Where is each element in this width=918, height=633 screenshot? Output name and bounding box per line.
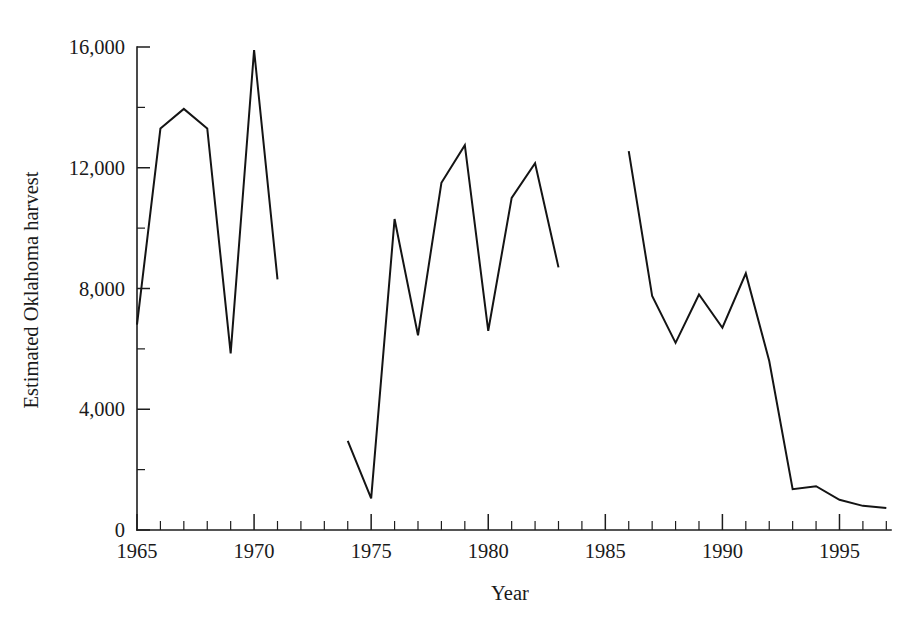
chart-figure: 04,0008,00012,00016,000 1965197019751980… [0, 0, 918, 633]
y-tick-label: 12,000 [69, 157, 125, 179]
x-tick-label: 1990 [702, 540, 743, 562]
x-tick-label: 1995 [819, 540, 860, 562]
x-tick-label: 1985 [585, 540, 626, 562]
y-tick-label: 8,000 [79, 278, 125, 300]
line-chart: 04,0008,00012,00016,000 1965197019751980… [0, 0, 918, 633]
y-tick-label: 16,000 [69, 36, 125, 58]
x-axis-title: Year [491, 582, 529, 604]
y-tick-label: 4,000 [79, 398, 125, 420]
y-axis-title: Estimated Oklahoma harvest [20, 171, 42, 408]
y-tick-label: 0 [115, 519, 125, 541]
x-tick-label: 1980 [468, 540, 509, 562]
x-tick-label: 1975 [351, 540, 392, 562]
x-tick-label: 1965 [117, 540, 158, 562]
x-tick-label: 1970 [234, 540, 275, 562]
